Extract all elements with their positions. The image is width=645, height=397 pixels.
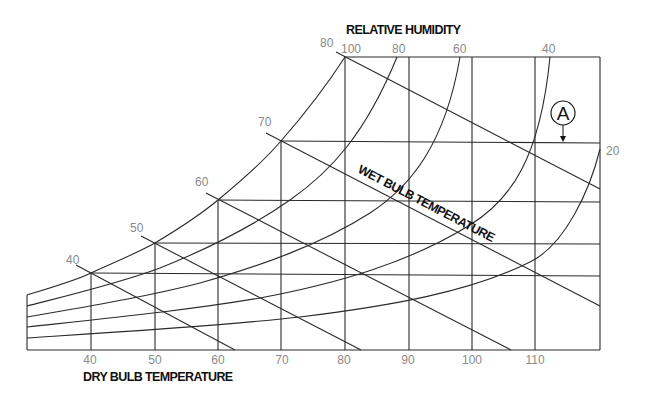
svg-text:90: 90: [401, 353, 415, 367]
svg-text:60: 60: [453, 42, 467, 56]
rh-labels: 100 80 60 40 20: [341, 42, 620, 158]
wb-70-line: [266, 133, 600, 306]
dry-bulb-title: DRY BULB TEMPERATURE: [83, 370, 233, 384]
svg-text:60: 60: [195, 175, 209, 189]
marker-a-label: A: [557, 103, 570, 124]
psychrometric-chart: A RELATIVE HUMIDITY DRY BULB TEMPERATURE…: [0, 0, 645, 397]
svg-text:80: 80: [320, 36, 334, 50]
relative-humidity-title: RELATIVE HUMIDITY: [346, 23, 462, 37]
marker-a-arrow-head-icon: [560, 136, 566, 142]
svg-text:80: 80: [337, 353, 351, 367]
wb-50-line: [141, 236, 361, 350]
svg-text:110: 110: [525, 353, 544, 367]
svg-text:40: 40: [66, 253, 80, 267]
relative-humidity-curves: [27, 57, 600, 338]
svg-text:50: 50: [130, 221, 144, 235]
svg-text:70: 70: [275, 353, 289, 367]
svg-text:100: 100: [462, 353, 482, 367]
svg-text:80: 80: [392, 42, 406, 56]
wet-bulb-title: WET BULB TEMPERATURE: [356, 162, 497, 245]
svg-text:20: 20: [606, 144, 620, 158]
svg-text:60: 60: [211, 353, 225, 367]
marker-a: A: [551, 101, 575, 142]
svg-text:50: 50: [148, 353, 162, 367]
dry-bulb-gridlines: [91, 57, 535, 350]
wet-bulb-labels: 40 50 60 70 80: [66, 36, 334, 267]
x-tick-labels: 40 50 60 70 80 90 100 110: [83, 353, 545, 367]
svg-text:70: 70: [258, 115, 272, 129]
svg-text:40: 40: [542, 42, 556, 56]
svg-text:40: 40: [83, 353, 97, 367]
svg-text:100: 100: [341, 42, 361, 56]
